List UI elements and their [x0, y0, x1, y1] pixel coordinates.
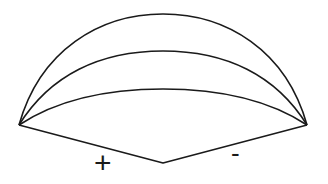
bottom-chevron [19, 125, 307, 163]
middle-arc [19, 51, 307, 125]
outer-arc [19, 14, 307, 125]
negative-sign: - [231, 140, 240, 166]
fan-diagram [0, 0, 328, 184]
positive-sign: + [94, 148, 112, 178]
inner-arc [19, 89, 307, 125]
